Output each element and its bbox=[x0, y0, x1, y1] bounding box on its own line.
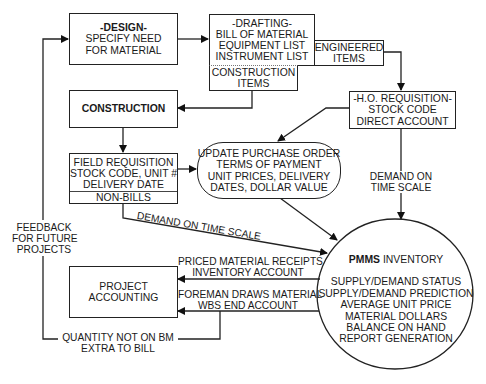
pmms-line: MATERIAL DOLLARS bbox=[317, 311, 475, 322]
pmms-line: SUPPLY/DEMAND PREDICTION bbox=[317, 288, 475, 299]
edge-label-line: FEEDBACK bbox=[12, 222, 76, 233]
edge-label-line: WBS END ACCOUNT bbox=[178, 300, 318, 311]
feedback-for-future-projects-label: FEEDBACK FOR FUTURE PROJECTS bbox=[12, 222, 76, 255]
priced-material-receipts-label: PRICED MATERIAL RECEIPTS INVENTORY ACCOU… bbox=[178, 256, 318, 278]
edge-label-line: QUANTITY NOT ON BM bbox=[58, 332, 178, 343]
drafting-line: EQUIPMENT LIST bbox=[219, 40, 305, 51]
field-requisition-line: DELIVERY DATE bbox=[83, 179, 164, 190]
update-po-line: DATES, DOLLAR VALUE bbox=[210, 182, 327, 193]
pmms-line: AVERAGE UNIT PRICE bbox=[317, 299, 475, 310]
project-accounting-line: ACCOUNTING bbox=[89, 292, 159, 303]
pmms-title: PMMS INVENTORY bbox=[317, 254, 475, 265]
field-requisition-line: STOCK CODE, UNIT # bbox=[70, 168, 177, 179]
arrow-ho-to-update-po bbox=[278, 108, 349, 141]
pmms-inventory-text: PMMS INVENTORY SUPPLY/DEMAND STATUS SUPP… bbox=[317, 254, 475, 345]
pmms-title-rest: INVENTORY bbox=[380, 254, 443, 265]
edge-label-line: FOR FUTURE bbox=[12, 233, 76, 244]
pmms-title-bold: PMMS bbox=[349, 254, 380, 265]
update-po-line: UNIT PRICES, DELIVERY bbox=[208, 171, 331, 182]
drafting-title: -DRAFTING- bbox=[232, 18, 292, 29]
ho-requisition-title: -H.O. REQUISITION- bbox=[353, 93, 452, 104]
quantity-not-on-bm-label: QUANTITY NOT ON BM EXTRA TO BILL bbox=[58, 332, 178, 354]
arrow-engineered-to-ho bbox=[383, 52, 401, 90]
ho-requisition-line: STOCK CODE bbox=[368, 104, 437, 115]
pmms-line: SUPPLY/DEMAND STATUS bbox=[317, 276, 475, 287]
ho-requisition-line: DIRECT ACCOUNT bbox=[356, 116, 448, 127]
edge-label-line: DEMAND ON bbox=[364, 171, 438, 182]
ho-requisition-box: -H.O. REQUISITION- STOCK CODE DIRECT ACC… bbox=[349, 91, 456, 129]
field-requisition-line: FIELD REQUISITION bbox=[74, 157, 174, 168]
construction-items-line: ITEMS bbox=[238, 78, 270, 89]
pmms-spacer bbox=[317, 265, 475, 276]
design-box: -DESIGN- SPECIFY NEED FOR MATERIAL bbox=[69, 13, 178, 65]
edge-label-line: EXTRA TO BILL bbox=[58, 343, 178, 354]
project-accounting-line: PROJECT bbox=[99, 281, 148, 292]
edge-label-line: INVENTORY ACCOUNT bbox=[178, 267, 318, 278]
drafting-line: INSTRUMENT LIST bbox=[216, 51, 309, 62]
drafting-line: BILL OF MATERIAL bbox=[216, 29, 308, 40]
drafting-box: -DRAFTING- BILL OF MATERIAL EQUIPMENT LI… bbox=[209, 14, 315, 66]
edge-label-line: PRICED MATERIAL RECEIPTS bbox=[178, 256, 318, 267]
update-po-line: UPDATE PURCHASE ORDER bbox=[198, 148, 340, 159]
edge-label-line: PROJECTS bbox=[12, 244, 76, 255]
project-accounting-box: PROJECT ACCOUNTING bbox=[69, 266, 178, 318]
arrow-update-po-to-pmms bbox=[280, 198, 337, 240]
design-line: FOR MATERIAL bbox=[85, 45, 161, 56]
non-bills-label: NON-BILLS bbox=[96, 192, 151, 203]
pmms-line: REPORT GENERATION bbox=[317, 333, 475, 344]
design-line: SPECIFY NEED bbox=[85, 33, 161, 44]
arrow-construction-items-to-construction bbox=[178, 90, 252, 108]
edge-label-line: FOREMAN DRAWS MATERIAL bbox=[178, 289, 318, 300]
pmms-line: BALANCE ON HAND bbox=[317, 322, 475, 333]
foreman-draws-material-label: FOREMAN DRAWS MATERIAL WBS END ACCOUNT bbox=[178, 289, 318, 311]
demand-on-time-scale-label-right: DEMAND ON TIME SCALE bbox=[364, 171, 438, 193]
edge-label-line: TIME SCALE bbox=[364, 182, 438, 193]
construction-items-box: CONSTRUCTION ITEMS bbox=[209, 65, 298, 91]
construction-items-line: CONSTRUCTION bbox=[212, 67, 296, 78]
engineered-items-line: ITEMS bbox=[333, 53, 365, 64]
update-po-line: TERMS OF PAYMENT bbox=[216, 159, 321, 170]
construction-title: CONSTRUCTION bbox=[82, 103, 166, 114]
update-purchase-order-box: UPDATE PURCHASE ORDER TERMS OF PAYMENT U… bbox=[197, 142, 341, 199]
design-title: -DESIGN- bbox=[100, 22, 147, 33]
field-requisition-box: FIELD REQUISITION STOCK CODE, UNIT # DEL… bbox=[69, 153, 178, 204]
construction-box: CONSTRUCTION bbox=[69, 90, 178, 128]
arrow-feedback-to-design bbox=[43, 39, 68, 220]
engineered-items-line: ENGINEERED bbox=[315, 42, 384, 53]
engineered-items-box: ENGINEERED ITEMS bbox=[314, 40, 384, 66]
